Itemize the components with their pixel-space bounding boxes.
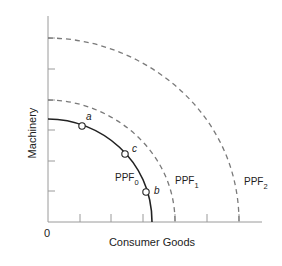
x-ticks — [80, 214, 239, 222]
ppf1-label: PPF1 — [175, 175, 199, 190]
point-a-label: a — [86, 111, 92, 122]
ppf0-label-sub: 0 — [134, 178, 138, 187]
ppf2-label-main: PPF — [244, 176, 263, 187]
y-ticks — [48, 38, 55, 191]
ppf0-curve — [48, 119, 152, 222]
point-c-marker — [122, 151, 128, 157]
point-b-label: b — [154, 185, 160, 196]
ppf-diagram: a c b PPF0 PPF1 PPF2 Machinery Consumer … — [0, 0, 282, 266]
ppf1-label-main: PPF — [175, 175, 194, 186]
x-axis-title: Consumer Goods — [109, 236, 196, 248]
ppf2-label: PPF2 — [244, 176, 268, 191]
point-b-marker — [143, 189, 149, 195]
ppf2-label-sub: 2 — [263, 182, 267, 191]
ppf0-label: PPF0 — [115, 172, 139, 187]
ppf1-curve — [48, 100, 175, 222]
ppf0-label-main: PPF — [115, 172, 134, 183]
y-axis-title: Machinery — [26, 107, 38, 158]
origin-label: 0 — [44, 227, 50, 239]
point-c-label: c — [132, 143, 137, 154]
point-a-marker — [79, 123, 85, 129]
ppf1-label-sub: 1 — [194, 181, 198, 190]
